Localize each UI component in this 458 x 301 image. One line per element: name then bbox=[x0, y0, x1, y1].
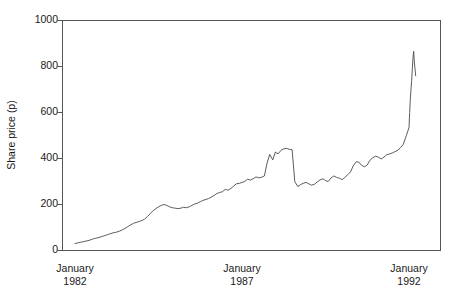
share-price-line bbox=[75, 51, 416, 243]
chart-plot-area bbox=[0, 0, 458, 301]
axis-frame bbox=[63, 21, 441, 251]
y-axis-ticks bbox=[57, 21, 63, 251]
chart-figure: Share price (p) 1000 800 600 400 200 0 J… bbox=[0, 0, 458, 301]
